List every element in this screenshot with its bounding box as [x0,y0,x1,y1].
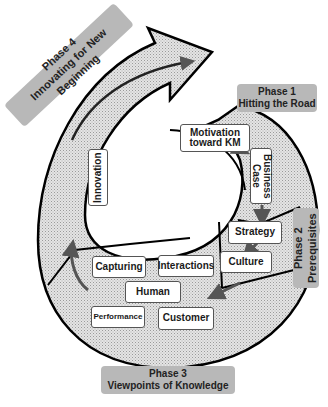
node-performance[interactable]: Performance [91,306,145,328]
node-innovation[interactable]: Innovation [88,149,108,206]
phase-2-label: Phase 2 Prerequisites [293,208,319,288]
phase-1-number: Phase 1 [258,86,296,99]
node-interactions[interactable]: Interactions [158,255,214,277]
node-motivation[interactable]: Motivation toward KM [180,124,250,152]
phase-2-title: Prerequisites [306,213,320,283]
phase-3-number: Phase 3 [149,368,187,381]
phase-1-label: Phase 1 Hitting the Road [237,84,317,112]
node-business-case[interactable]: Business Case [250,148,272,204]
node-human[interactable]: Human [125,281,181,303]
phase-2-number: Phase 2 [292,227,306,269]
phase-3-label: Phase 3 Viewpoints of Knowledge [101,366,235,394]
node-customer[interactable]: Customer [158,307,214,330]
phase-1-title: Hitting the Road [238,98,315,111]
phase-3-title: Viewpoints of Knowledge [108,380,229,393]
node-strategy[interactable]: Strategy [228,221,282,244]
node-capturing[interactable]: Capturing [92,256,146,278]
node-culture[interactable]: Culture [220,251,272,273]
